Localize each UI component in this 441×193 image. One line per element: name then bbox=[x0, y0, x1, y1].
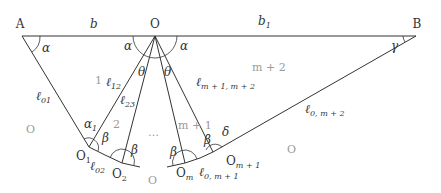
angle-arc-o1 bbox=[84, 138, 98, 151]
angle-alpha-o-left: α bbox=[124, 39, 132, 53]
angle-arc-b bbox=[403, 36, 405, 42]
segment-b-label: b bbox=[90, 17, 98, 31]
angle-arc-a bbox=[32, 36, 40, 52]
angle-beta-om: β bbox=[169, 145, 177, 159]
angle-alpha-o-right: α bbox=[180, 39, 188, 53]
angle-delta: δ bbox=[222, 125, 229, 139]
region-outer-bottom-label: O bbox=[148, 174, 157, 187]
point-o-label: O bbox=[150, 17, 160, 31]
region-outer-left-label: O bbox=[26, 123, 35, 136]
region-m2-label: m + 2 bbox=[252, 61, 286, 74]
region-outer-right-label: O bbox=[287, 143, 296, 156]
angle-arc-o bbox=[133, 36, 177, 58]
segment-l02-label: ℓ02 bbox=[90, 159, 105, 175]
segment-o-om bbox=[155, 36, 185, 163]
segment-l23-label: ℓ23 bbox=[120, 93, 135, 109]
point-o2-label: O2 bbox=[112, 167, 127, 183]
angle-gamma: γ bbox=[391, 39, 399, 53]
region-dots-label: … bbox=[148, 126, 159, 139]
point-b-label: B bbox=[413, 17, 422, 31]
angle-beta-o2: β bbox=[130, 143, 138, 157]
angle-theta-left: θ bbox=[138, 65, 146, 79]
segment-l0m2 bbox=[213, 36, 416, 152]
segment-l0m2-label: ℓ0, m + 2 bbox=[305, 102, 345, 118]
geometry-diagram: A O B O1 O2 Om Om + 1 b b1 ℓ01 ℓ12 ℓ23 ℓ… bbox=[0, 0, 441, 193]
segment-l12 bbox=[89, 36, 155, 147]
region-m1-label: m + 1 bbox=[178, 119, 212, 132]
angle-alpha1: α1 bbox=[84, 117, 97, 133]
angle-beta-o1: β bbox=[101, 131, 109, 145]
point-om-label: Om bbox=[176, 166, 194, 182]
point-om1-label: Om + 1 bbox=[226, 154, 260, 170]
point-a-label: A bbox=[15, 17, 25, 31]
segment-l01-label: ℓ01 bbox=[36, 89, 51, 105]
segment-b1-label: b1 bbox=[258, 14, 271, 30]
point-o1-label: O1 bbox=[76, 149, 91, 165]
region-1-label: 1 bbox=[95, 74, 102, 87]
angle-theta-right: θ bbox=[164, 65, 172, 79]
segment-lm1m2-label: ℓm + 1, m + 2 bbox=[196, 75, 255, 91]
angle-alpha-a: α bbox=[42, 41, 50, 55]
angle-beta-om1: β bbox=[203, 133, 211, 147]
segment-l12-label: ℓ12 bbox=[106, 75, 121, 91]
region-2-label: 2 bbox=[113, 118, 120, 131]
